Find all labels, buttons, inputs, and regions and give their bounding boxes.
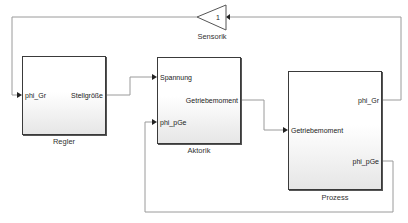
signal-line-stellgroesse[interactable] [106,77,152,95]
regler-output-stellgroesse: Stellgröße [71,92,103,100]
sensorik-label: Sensorik [190,32,234,41]
regler-label: Regler [22,137,106,146]
regler-block[interactable]: phi_Gr Stellgröße [22,56,106,135]
sensorik-gain-block[interactable] [197,5,226,30]
arrowhead-sensorik-in [226,14,230,20]
sensorik-gain-value: 1 [216,14,220,21]
aktorik-block[interactable]: Spannung Getriebemoment phi_pGe [157,57,241,144]
aktorik-output-getriebemoment: Getriebemoment [186,97,238,105]
regler-input-phi-gr: phi_Gr [25,92,46,100]
prozess-block[interactable]: phi_Gr Getriebemoment phi_pGe [288,71,382,190]
simulink-canvas: 1 Sensorik phi_Gr Stellgröße Regler Span… [0,0,408,223]
aktorik-input-spannung: Spannung [160,74,192,82]
prozess-output-phi-pge: phi_pGe [353,158,379,166]
prozess-output-phi-gr: phi_Gr [358,97,379,105]
prozess-input-getriebemoment: Getriebemoment [291,127,343,135]
aktorik-input-phi-pge: phi_pGe [160,119,186,127]
signal-line-getriebemoment[interactable] [241,100,283,130]
aktorik-label: Aktorik [157,146,241,155]
prozess-label: Prozess [288,193,382,202]
